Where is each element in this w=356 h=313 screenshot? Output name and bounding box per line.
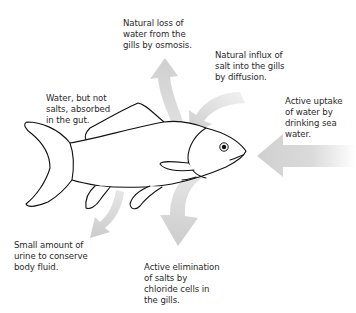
- label-water-loss-osmosis: Natural loss of water from the gills by …: [123, 18, 192, 51]
- label-salt-elimination-chloride: Active elimination of salts by chloride …: [144, 262, 220, 306]
- label-drinking-sea-water: Active uptake of water by drinking sea w…: [285, 96, 343, 140]
- fish-eye: [220, 143, 228, 151]
- label-water-absorbed-gut: Water, but not salts, absorbed in the gu…: [46, 93, 110, 126]
- arrow-drinking: [257, 134, 356, 177]
- anal-fin: [86, 186, 110, 209]
- osmoregulation-diagram: Natural loss of water from the gills by …: [0, 0, 356, 313]
- tail-fin: [25, 122, 72, 206]
- label-salt-influx-diffusion: Natural influx of salt into the gills by…: [215, 50, 284, 83]
- pelvic-fin: [130, 186, 162, 209]
- label-urine-conserve-fluid: Small amount of urine to conserve body f…: [14, 240, 88, 273]
